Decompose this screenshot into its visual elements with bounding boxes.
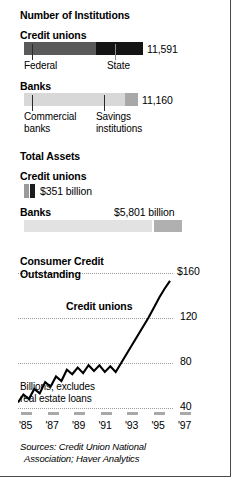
institutions-banks-label: Banks bbox=[20, 80, 51, 92]
x-tick-label: '95 bbox=[152, 419, 165, 431]
x-tick-mark bbox=[180, 412, 191, 415]
assets-credit-unions-value: $351 billion bbox=[40, 185, 92, 197]
chart-x-axis: '85'87'89'91'93'95'97 bbox=[18, 412, 208, 436]
x-tick-label: '89 bbox=[72, 419, 85, 431]
x-tick-mark bbox=[74, 412, 85, 415]
infographic-panel: Number of Institutions Credit unions 11,… bbox=[0, 0, 231, 477]
ytick-label-160: $160 bbox=[177, 265, 200, 277]
ytick-label-80: 80 bbox=[180, 355, 191, 367]
institutions-banks-bar bbox=[24, 93, 138, 106]
x-tick-label: '91 bbox=[99, 419, 112, 431]
institutions-credit-unions-label: Credit unions bbox=[20, 29, 86, 41]
x-tick-label: '93 bbox=[125, 419, 138, 431]
label-state: State bbox=[107, 60, 130, 72]
x-tick-mark bbox=[21, 412, 32, 415]
sources-note: Sources: Credit Union National Associati… bbox=[20, 441, 210, 464]
bar-segment-cu-state-assets bbox=[30, 184, 35, 198]
ytick-label-40: 40 bbox=[180, 400, 191, 412]
bar-segment-commercial-banks bbox=[24, 93, 125, 106]
institutions-credit-unions-bar bbox=[24, 42, 143, 55]
bar-segment-savings-institutions bbox=[125, 93, 138, 106]
x-tick-label: '87 bbox=[46, 419, 59, 431]
tick-federal bbox=[32, 44, 33, 60]
institutions-credit-unions-value: 11,591 bbox=[147, 43, 178, 55]
bar-segment-state bbox=[96, 42, 143, 55]
bar-segment-bank-savings-assets bbox=[154, 220, 182, 232]
assets-banks-value: $5,801 billion bbox=[114, 206, 174, 218]
label-commercial-banks: Commercial banks bbox=[24, 111, 100, 134]
assets-banks-bar bbox=[24, 220, 182, 232]
x-tick-mark bbox=[101, 412, 112, 415]
x-tick-label: '85 bbox=[19, 419, 32, 431]
institutions-banks-value: 11,160 bbox=[142, 94, 173, 106]
infographic-content: Number of Institutions Credit unions 11,… bbox=[0, 0, 222, 469]
tick-commercial-banks bbox=[32, 95, 33, 111]
ytick-label-120: 120 bbox=[180, 310, 197, 322]
x-tick-label: '97 bbox=[178, 419, 191, 431]
label-savings-institutions: Savings institutions bbox=[96, 111, 182, 134]
tick-savings-institutions bbox=[104, 95, 105, 111]
x-tick-mark bbox=[154, 412, 165, 415]
assets-banks-label: Banks bbox=[20, 206, 51, 218]
bar-segment-cu-federal-assets bbox=[24, 184, 29, 198]
chart-note-line1: Billions; excludes bbox=[20, 381, 95, 393]
sources-line1: Sources: Credit Union National bbox=[20, 441, 146, 452]
assets-credit-unions-label: Credit unions bbox=[20, 170, 86, 182]
chart-note-line2: real estate loans bbox=[20, 393, 92, 405]
x-tick-mark bbox=[48, 412, 59, 415]
assets-credit-unions-bar bbox=[24, 184, 35, 198]
bar-segment-bank-commercial-assets bbox=[24, 220, 152, 232]
label-federal: Federal bbox=[24, 60, 57, 72]
x-tick-mark bbox=[127, 412, 138, 415]
section-title-assets: Total Assets bbox=[20, 150, 80, 162]
section-title-institutions: Number of Institutions bbox=[20, 9, 130, 21]
tick-state bbox=[115, 44, 116, 60]
sources-line2: Association; Haver Analytics bbox=[20, 453, 210, 465]
bar-segment-federal bbox=[24, 42, 96, 55]
